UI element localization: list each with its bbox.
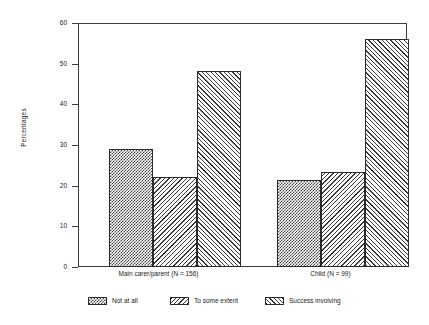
y-tick-label-50: 50 (37, 61, 67, 68)
bars-layer (79, 24, 406, 267)
bar-main-carer-to-some-extent (153, 177, 197, 267)
legend: Not at all To some extent Success involv… (0, 294, 429, 310)
bar-child-success-involving (365, 39, 409, 267)
y-tick-label-60: 60 (37, 20, 67, 27)
legend-swatch-checkerboard-icon (88, 297, 107, 305)
y-tick-label-30: 30 (37, 142, 67, 149)
y-axis-title: Percentages (20, 83, 27, 173)
bar-main-carer-success-involving (197, 71, 241, 267)
legend-item-not-at-all: Not at all (88, 294, 138, 308)
y-tick-label-10: 10 (37, 223, 67, 230)
bar-main-carer-not-at-all (109, 149, 153, 267)
legend-label-success-involving: Success involving (289, 298, 341, 305)
x-category-label-child: Child (N = 99) (258, 270, 403, 277)
y-tick-label-20: 20 (37, 183, 67, 190)
legend-item-to-some-extent: To some extent (170, 294, 238, 308)
x-category-label-main-carer: Main carer/parent (N = 156) (86, 270, 231, 277)
y-tick-mark-0 (72, 267, 78, 268)
bar-child-not-at-all (277, 180, 321, 267)
legend-swatch-backslash-hatch-icon (170, 297, 189, 305)
y-tick-label-0: 0 (37, 264, 67, 271)
legend-swatch-forwardslash-hatch-icon (265, 297, 284, 305)
y-tick-label-40: 40 (37, 101, 67, 108)
legend-label-to-some-extent: To some extent (194, 298, 238, 305)
bar-child-to-some-extent (321, 172, 365, 267)
legend-item-success-involving: Success involving (265, 294, 341, 308)
legend-label-not-at-all: Not at all (112, 298, 138, 305)
bar-chart: Percentages 0 10 20 30 40 50 60 Main car… (0, 0, 429, 325)
